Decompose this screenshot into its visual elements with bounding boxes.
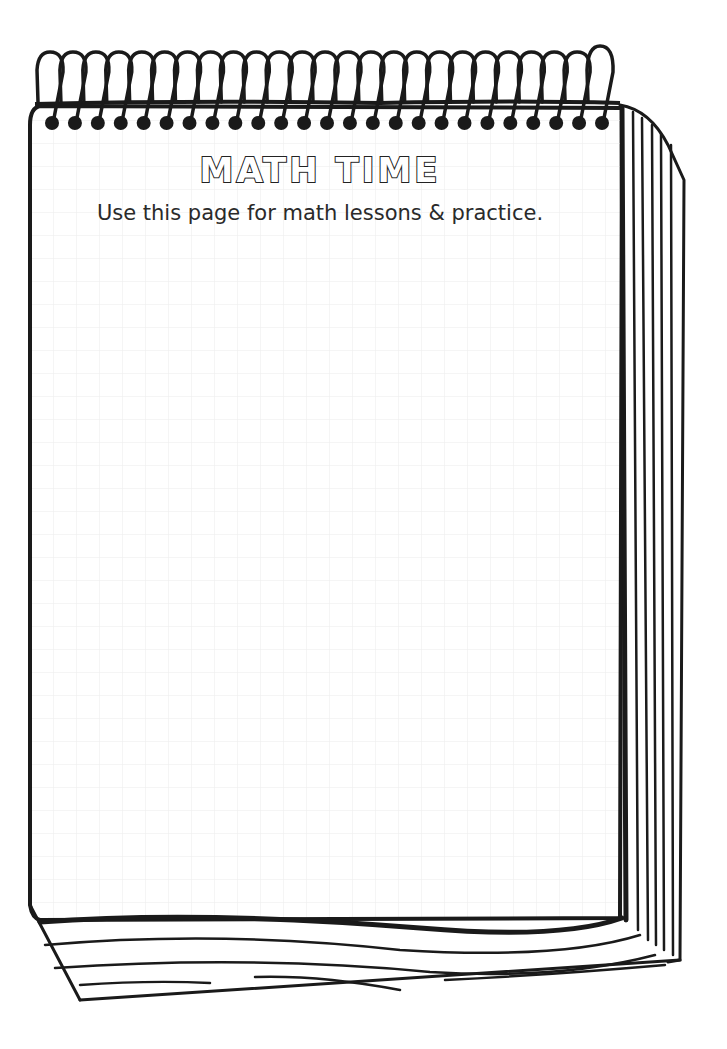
spiral-hole xyxy=(137,116,151,130)
spiral-hole xyxy=(503,116,517,130)
spiral-hole xyxy=(160,116,174,130)
spiral-hole xyxy=(480,116,494,130)
notepad-page xyxy=(30,106,622,920)
spiral-hole xyxy=(595,116,609,130)
spiral-hole xyxy=(412,116,426,130)
spiral-hole xyxy=(458,116,472,130)
spiral-hole xyxy=(366,116,380,130)
notepad-side-edge xyxy=(620,105,684,962)
spiral-binding-line xyxy=(35,102,620,105)
spiral-hole xyxy=(343,116,357,130)
page-subtitle: Use this page for math lessons & practic… xyxy=(0,201,640,225)
spiral-hole xyxy=(526,116,540,130)
spiral-hole xyxy=(572,116,586,130)
spiral-hole xyxy=(435,116,449,130)
spiral-hole xyxy=(549,116,563,130)
spiral-hole xyxy=(228,116,242,130)
spiral-hole xyxy=(274,116,288,130)
spiral-hole xyxy=(91,116,105,130)
spiral-hole xyxy=(320,116,334,130)
spiral-hole xyxy=(297,116,311,130)
page-title: MATH TIME xyxy=(0,150,640,190)
spiral-hole xyxy=(183,116,197,130)
spiral-hole xyxy=(205,116,219,130)
spiral-hole xyxy=(114,116,128,130)
spiral-hole xyxy=(68,116,82,130)
spiral-hole xyxy=(389,116,403,130)
spiral-hole xyxy=(251,116,265,130)
spiral-hole xyxy=(45,116,59,130)
